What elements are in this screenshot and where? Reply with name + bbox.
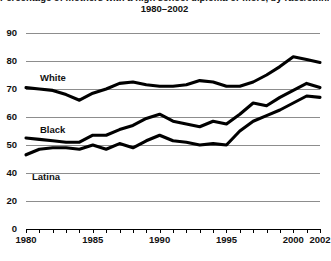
x-tick-1992 [186, 229, 187, 233]
x-tick-1983 [66, 229, 67, 233]
x-tick-1982 [53, 229, 54, 233]
x-tick-label-2000: 2000 [283, 235, 304, 245]
x-tick-1988 [133, 229, 134, 233]
x-tick-label-1995: 1995 [216, 235, 237, 245]
x-tick-1998 [267, 229, 268, 233]
chart-subtitle: 1980–2002 [0, 3, 329, 14]
x-tick-1980 [26, 229, 27, 233]
x-tick-1986 [106, 229, 107, 233]
x-tick-label-2002: 2002 [309, 235, 330, 245]
x-tick-2000 [293, 229, 294, 233]
x-tick-1984 [79, 229, 80, 233]
y-tick-label-60: 60 [0, 112, 17, 121]
series-label-latina: Latina [32, 172, 60, 182]
chart-title-block: Percentage of mothers with a high school… [0, 0, 329, 14]
x-tick-1987 [120, 229, 121, 233]
y-tick-label-40: 40 [0, 168, 17, 177]
y-tick-label-70: 70 [0, 84, 17, 93]
x-tick-label-1990: 1990 [149, 235, 170, 245]
y-tick-label-80: 80 [0, 56, 17, 65]
plot-area: 908070605040200 198019851990199520002002… [26, 33, 320, 229]
y-tick-label-50: 50 [0, 140, 17, 149]
x-tick-2001 [307, 229, 308, 233]
x-tick-1996 [240, 229, 241, 233]
y-tick-label-0: 0 [0, 224, 17, 233]
x-tick-2002 [320, 229, 321, 233]
x-tick-1999 [280, 229, 281, 233]
y-tick-label-90: 90 [0, 28, 17, 37]
line-latina [26, 96, 320, 155]
x-tick-1991 [173, 229, 174, 233]
x-tick-1993 [200, 229, 201, 233]
x-tick-1997 [253, 229, 254, 233]
series-label-black: Black [40, 125, 65, 135]
series-label-white: White [40, 73, 66, 83]
x-tick-1985 [93, 229, 94, 233]
series-lines [26, 33, 320, 229]
line-white [26, 57, 320, 100]
x-tick-1995 [226, 229, 227, 233]
x-tick-1990 [160, 229, 161, 233]
x-tick-label-1985: 1985 [82, 235, 103, 245]
x-tick-label-1980: 1980 [15, 235, 36, 245]
x-tick-1994 [213, 229, 214, 233]
x-tick-1981 [39, 229, 40, 233]
y-tick-label-20: 20 [0, 196, 17, 205]
x-tick-1989 [146, 229, 147, 233]
